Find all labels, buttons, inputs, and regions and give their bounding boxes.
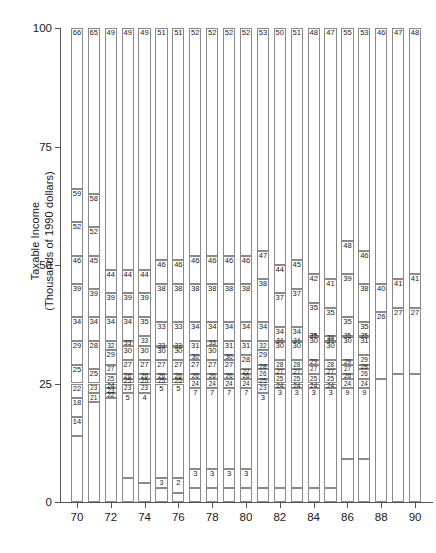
bar-segment[interactable] <box>172 384 184 479</box>
bar-segment[interactable] <box>189 28 201 256</box>
bar-segment-label: 7 <box>240 389 252 397</box>
bar-segment[interactable] <box>138 28 150 270</box>
bar[interactable]: 52463834333027262473 <box>206 28 218 502</box>
bar-segment[interactable] <box>341 459 353 502</box>
bar[interactable]: 474127 <box>392 28 404 502</box>
bar-segment[interactable] <box>105 28 117 270</box>
bar-segment[interactable] <box>189 388 201 469</box>
bar[interactable]: 4944393432292725242322 <box>105 28 117 502</box>
bar-segment[interactable] <box>88 28 100 194</box>
x-tick-label: 86 <box>330 511 364 523</box>
bar-segment[interactable] <box>409 28 421 274</box>
bar-segment-label: 3 <box>189 470 201 478</box>
bar[interactable]: 534638353531292826249 <box>358 28 370 502</box>
bar-segment[interactable] <box>392 28 404 279</box>
bar-segment[interactable] <box>240 388 252 469</box>
y-tick-mark <box>55 265 60 266</box>
bar-segment[interactable] <box>257 393 269 488</box>
bar-segment[interactable] <box>308 488 320 502</box>
x-tick-label: 90 <box>398 511 432 523</box>
bar-segment[interactable] <box>172 28 184 260</box>
bar-segment[interactable] <box>240 488 252 502</box>
bar-segment[interactable] <box>274 488 286 502</box>
bar-segment[interactable] <box>392 374 404 502</box>
bar-segment-label: 38 <box>189 285 201 293</box>
bar[interactable]: 474135343430282725243 <box>324 28 336 502</box>
bar-segment[interactable] <box>206 388 218 469</box>
bar-segment[interactable] <box>122 478 134 502</box>
x-tick-label: 78 <box>195 511 229 523</box>
bar-segment[interactable] <box>409 374 421 502</box>
bar[interactable]: 504437343430282725243 <box>274 28 286 502</box>
bar-segment[interactable] <box>257 488 269 502</box>
bar-segment[interactable] <box>358 28 370 251</box>
bar-segment[interactable] <box>138 483 150 502</box>
bar-segment[interactable] <box>71 436 83 502</box>
bar-segment-label: 46 <box>240 257 252 265</box>
bar-segment[interactable] <box>155 28 167 260</box>
bar-segment[interactable] <box>375 28 387 284</box>
bar-segment[interactable] <box>274 28 286 265</box>
bar-segment[interactable] <box>223 28 235 256</box>
bar-segment[interactable] <box>189 488 201 502</box>
bar-segment[interactable] <box>240 28 252 256</box>
bar[interactable]: 514537343430282725243 <box>291 28 303 502</box>
bar[interactable]: 554839353530292726249 <box>341 28 353 502</box>
bar-segment-label: 49 <box>138 29 150 37</box>
bar-segment[interactable] <box>138 393 150 483</box>
bar-segment[interactable] <box>324 28 336 279</box>
bar-segment[interactable] <box>88 402 100 502</box>
bar-segment-label: 48 <box>409 29 421 37</box>
bar-segment-label: 24 <box>341 380 353 387</box>
bar-segment-label: 18 <box>71 399 83 407</box>
bar-segment[interactable] <box>308 28 320 274</box>
bar-segment[interactable] <box>155 488 167 502</box>
bar-segment[interactable] <box>122 28 134 270</box>
bar[interactable]: 464026 <box>375 28 387 502</box>
bar-segment-label: 34 <box>189 323 201 331</box>
bar-segment[interactable] <box>105 398 117 502</box>
bar-segment[interactable] <box>308 388 320 488</box>
bar[interactable]: 484127 <box>409 28 421 502</box>
bar[interactable]: 534738343229282625233 <box>257 28 269 502</box>
bar-segment[interactable] <box>291 488 303 502</box>
bar-segment[interactable] <box>223 488 235 502</box>
bar-segment-label: 52 <box>88 228 100 236</box>
bar[interactable]: 484235353530292725243 <box>308 28 320 502</box>
bar-segment[interactable] <box>274 388 286 488</box>
bar-segment[interactable] <box>291 28 303 260</box>
bar-segment[interactable] <box>392 308 404 374</box>
bar-segment[interactable] <box>223 388 235 469</box>
bar-segment[interactable] <box>375 379 387 502</box>
x-tick-mark <box>314 503 315 508</box>
bar-segment[interactable] <box>341 388 353 459</box>
bar-segment[interactable] <box>358 388 370 459</box>
bar-segment[interactable] <box>257 28 269 251</box>
bar[interactable]: 65585245393428252321 <box>88 28 100 502</box>
bar-segment-label: 33 <box>138 337 150 344</box>
bar-segment[interactable] <box>409 308 421 374</box>
bar[interactable]: 494439343330272625235 <box>122 28 134 502</box>
bar-segment[interactable] <box>324 488 336 502</box>
bar-segment[interactable] <box>122 393 134 478</box>
bar-segment[interactable] <box>206 28 218 256</box>
bar-segment[interactable] <box>375 312 387 378</box>
bar[interactable]: 52463834313027262473 <box>189 28 201 502</box>
bar-segment[interactable] <box>291 388 303 488</box>
x-tick-label: 74 <box>128 511 162 523</box>
bar-segment-label: 38 <box>223 285 235 293</box>
bar-segment[interactable] <box>206 488 218 502</box>
bar-segment[interactable] <box>358 459 370 502</box>
bar[interactable]: 51463833333027262552 <box>172 28 184 502</box>
bar[interactable]: 52463834313027262473 <box>223 28 235 502</box>
bar-segment[interactable] <box>172 493 184 502</box>
bar[interactable]: 6659524639342925221814 <box>71 28 83 502</box>
bar[interactable]: 52463834312827262473 <box>240 28 252 502</box>
bar[interactable]: 494439353330272625234 <box>138 28 150 502</box>
x-tick-label: 88 <box>364 511 398 523</box>
bar-segment[interactable] <box>71 28 83 189</box>
bar-segment[interactable] <box>155 384 167 479</box>
bar[interactable]: 51463833333027262553 <box>155 28 167 502</box>
bar-segment[interactable] <box>324 388 336 488</box>
bar-segment[interactable] <box>341 28 353 241</box>
